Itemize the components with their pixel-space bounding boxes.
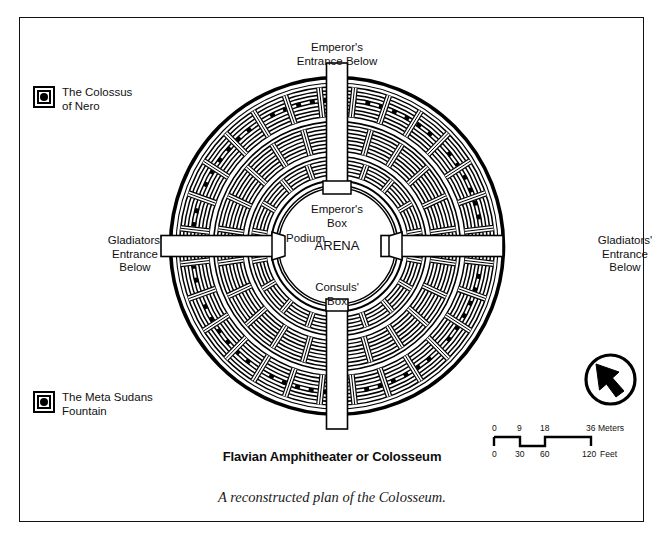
- legend-item-meta-sudans-fountain: The Meta Sudans Fountain: [33, 391, 153, 418]
- legend-item-label: The Colossus of Nero: [62, 86, 132, 113]
- label-emperors-box: Emperor's Box: [302, 203, 372, 230]
- concentric-square-dot-symbol-icon: [33, 86, 55, 108]
- label-gladiators-entrance-right: Gladiators' Entrance Below: [586, 234, 664, 275]
- scale-unit-meters: Meters: [598, 424, 624, 433]
- label-gladiators-entrance-left: Gladiators' Entrance Below: [96, 234, 174, 275]
- figure-caption: A reconstructed plan of the Colosseum.: [0, 489, 664, 506]
- label-consuls-box: Consuls' Box: [303, 281, 371, 308]
- figure-page: The Colossus of Nero The Meta Sudans Fou…: [0, 0, 664, 537]
- map-title: Flavian Amphitheater or Colosseum: [0, 449, 664, 464]
- legend-item-label: The Meta Sudans Fountain: [62, 391, 153, 418]
- legend-item-colossus-of-nero: The Colossus of Nero: [33, 86, 132, 113]
- scale-tick-m-1: 9: [517, 424, 522, 433]
- scale-tick-m-2: 18: [540, 424, 549, 433]
- scale-bar-graphic: [492, 435, 616, 448]
- label-emperors-entrance: Emperor's Entrance Below: [287, 41, 387, 68]
- label-arena: ARENA: [302, 239, 372, 253]
- scale-tick-m-3: 36: [586, 424, 595, 433]
- scale-tick-m-0: 0: [492, 424, 497, 433]
- concentric-square-dot-symbol-icon: [33, 391, 55, 413]
- north-arrow-icon: [583, 352, 638, 407]
- emperors-box-shape: [323, 181, 351, 194]
